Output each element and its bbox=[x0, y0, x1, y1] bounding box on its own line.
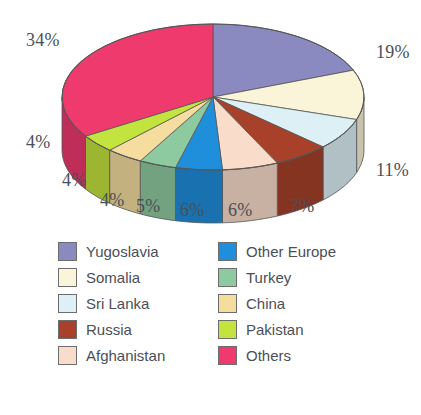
legend-swatch-icon bbox=[58, 320, 77, 339]
legend-swatch-icon bbox=[58, 268, 77, 287]
legend-label: Others bbox=[246, 347, 291, 364]
legend-swatch-icon bbox=[218, 242, 237, 261]
legend-label: Turkey bbox=[246, 269, 291, 286]
legend-swatch-icon bbox=[58, 346, 77, 365]
legend-item-somalia[interactable]: Somalia bbox=[58, 264, 210, 290]
percentage-label: 11% bbox=[376, 160, 409, 181]
legend-label: Other Europe bbox=[246, 243, 336, 260]
legend-item-russia[interactable]: Russia bbox=[58, 316, 210, 342]
percentage-label: 19% bbox=[376, 42, 410, 63]
legend-label: China bbox=[246, 295, 285, 312]
legend-item-turkey[interactable]: Turkey bbox=[218, 264, 370, 290]
percentage-label: 5% bbox=[136, 196, 160, 217]
legend-item-afghanistan[interactable]: Afghanistan bbox=[58, 342, 210, 368]
percentage-label: 4% bbox=[100, 190, 124, 211]
legend-label: Russia bbox=[86, 321, 132, 338]
legend-swatch-icon bbox=[218, 346, 237, 365]
legend-item-other-europe[interactable]: Other Europe bbox=[218, 238, 370, 264]
legend-item-pakistan[interactable]: Pakistan bbox=[218, 316, 370, 342]
legend-label: Pakistan bbox=[246, 321, 304, 338]
legend-label: Yugoslavia bbox=[86, 243, 159, 260]
legend-item-sri-lanka[interactable]: Sri Lanka bbox=[58, 290, 210, 316]
legend-swatch-icon bbox=[58, 242, 77, 261]
percentage-label: 4% bbox=[62, 170, 86, 191]
chart-legend: YugoslaviaOther EuropeSomaliaTurkeySri L… bbox=[58, 238, 378, 368]
legend-swatch-icon bbox=[218, 320, 237, 339]
legend-item-yugoslavia[interactable]: Yugoslavia bbox=[58, 238, 210, 264]
percentage-label: 34% bbox=[26, 30, 60, 51]
percentage-label: 6% bbox=[228, 200, 252, 221]
pie-chart-figure: 34%19%11%7%6%6%5%4%4%4% YugoslaviaOther … bbox=[0, 0, 421, 415]
legend-swatch-icon bbox=[218, 268, 237, 287]
pie-svg bbox=[0, 0, 421, 235]
legend-label: Afghanistan bbox=[86, 347, 165, 364]
percentage-label: 6% bbox=[180, 200, 204, 221]
legend-item-china[interactable]: China bbox=[218, 290, 370, 316]
legend-swatch-icon bbox=[58, 294, 77, 313]
legend-item-others[interactable]: Others bbox=[218, 342, 370, 368]
percentage-label: 7% bbox=[290, 196, 314, 217]
pie-chart-graphic bbox=[0, 0, 421, 235]
percentage-label: 4% bbox=[26, 132, 50, 153]
legend-label: Sri Lanka bbox=[86, 295, 149, 312]
legend-swatch-icon bbox=[218, 294, 237, 313]
legend-label: Somalia bbox=[86, 269, 140, 286]
